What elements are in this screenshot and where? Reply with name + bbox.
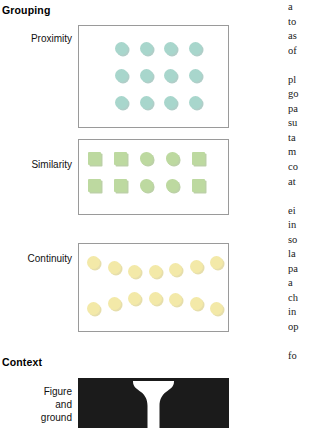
similarity-square	[114, 179, 127, 192]
proximity-dot	[140, 42, 153, 55]
similarity-square	[88, 179, 101, 192]
continuity-dot-upper	[128, 265, 141, 278]
continuity-dot-lower	[108, 297, 121, 310]
text-line: a	[288, 276, 309, 291]
continuity-dot-upper	[169, 263, 182, 276]
text-block-4: fo	[288, 349, 309, 364]
text-block-3: ei in so la pa a ch in op	[288, 204, 309, 335]
paragraph-gap	[288, 335, 309, 350]
text-block-1: a to as of	[288, 0, 309, 58]
similarity-square	[192, 179, 205, 192]
text-line: pa	[288, 102, 309, 117]
text-line: ta	[288, 131, 309, 146]
text-line: pl	[288, 73, 309, 88]
continuity-dot-upper	[108, 261, 121, 274]
continuity-dot-upper	[210, 256, 223, 269]
text-line: pa	[288, 262, 309, 277]
continuity-dot-upper	[87, 256, 100, 269]
text-line: at	[288, 175, 309, 190]
panel-similarity	[78, 139, 229, 215]
continuity-dot-lower	[128, 292, 141, 305]
text-line: in	[288, 218, 309, 233]
continuity-dot-lower	[149, 292, 162, 305]
text-line: so	[288, 233, 309, 248]
similarity-square	[192, 152, 205, 165]
continuity-dot-upper	[149, 265, 162, 278]
paragraph-gap	[288, 189, 309, 204]
continuity-dot-lower	[190, 297, 203, 310]
gestalt-principles-figure: Grouping Context Proximity Similarity Co…	[0, 0, 309, 428]
row-label-figure-and-ground: Figure and ground	[0, 385, 72, 424]
text-line: su	[288, 116, 309, 131]
proximity-dot	[189, 96, 202, 109]
text-line: la	[288, 247, 309, 262]
panel-continuity	[78, 243, 229, 332]
similarity-square	[88, 152, 101, 165]
proximity-dot	[164, 69, 177, 82]
continuity-dot-lower	[210, 302, 223, 315]
proximity-dot	[164, 96, 177, 109]
panel-figure-and-ground	[78, 378, 229, 428]
continuity-dot-upper	[190, 260, 203, 273]
row-label-proximity: Proximity	[0, 33, 72, 45]
similarity-circle	[140, 152, 153, 165]
figure-ground-label-line-1: Figure	[0, 385, 72, 398]
proximity-dot	[115, 69, 128, 82]
text-line: a	[288, 0, 309, 15]
continuity-dot-lower	[87, 302, 100, 315]
text-line: in	[288, 305, 309, 320]
similarity-circle	[166, 179, 179, 192]
proximity-dot	[115, 42, 128, 55]
panel-proximity	[78, 25, 229, 128]
row-label-similarity: Similarity	[0, 159, 72, 171]
proximity-dot	[140, 96, 153, 109]
rubin-vase-illusion-icon	[78, 378, 229, 428]
text-line: co	[288, 160, 309, 175]
similarity-square	[114, 152, 127, 165]
text-line: go	[288, 87, 309, 102]
section-heading-context: Context	[2, 356, 42, 368]
continuity-dot-lower	[169, 293, 182, 306]
proximity-dot	[115, 96, 128, 109]
text-line: ch	[288, 291, 309, 306]
row-label-continuity: Continuity	[0, 253, 72, 265]
similarity-circle	[140, 179, 153, 192]
adjacent-body-text-column: a to as of pl go pa su ta m co at ei in …	[288, 0, 309, 428]
figure-ground-label-line-2: and	[0, 398, 72, 411]
proximity-dot	[189, 69, 202, 82]
proximity-dot	[164, 42, 177, 55]
text-line: op	[288, 320, 309, 335]
section-heading-grouping: Grouping	[2, 4, 50, 16]
text-line: of	[288, 44, 309, 59]
paragraph-gap	[288, 58, 309, 73]
similarity-circle	[166, 152, 179, 165]
text-line: to	[288, 15, 309, 30]
text-line: as	[288, 29, 309, 44]
text-line: ei	[288, 204, 309, 219]
figure-ground-label-line-3: ground	[0, 411, 72, 424]
proximity-dot	[189, 42, 202, 55]
text-block-2: pl go pa su ta m co at	[288, 73, 309, 189]
proximity-dot	[140, 69, 153, 82]
text-line: m	[288, 145, 309, 160]
text-line: fo	[288, 349, 309, 364]
